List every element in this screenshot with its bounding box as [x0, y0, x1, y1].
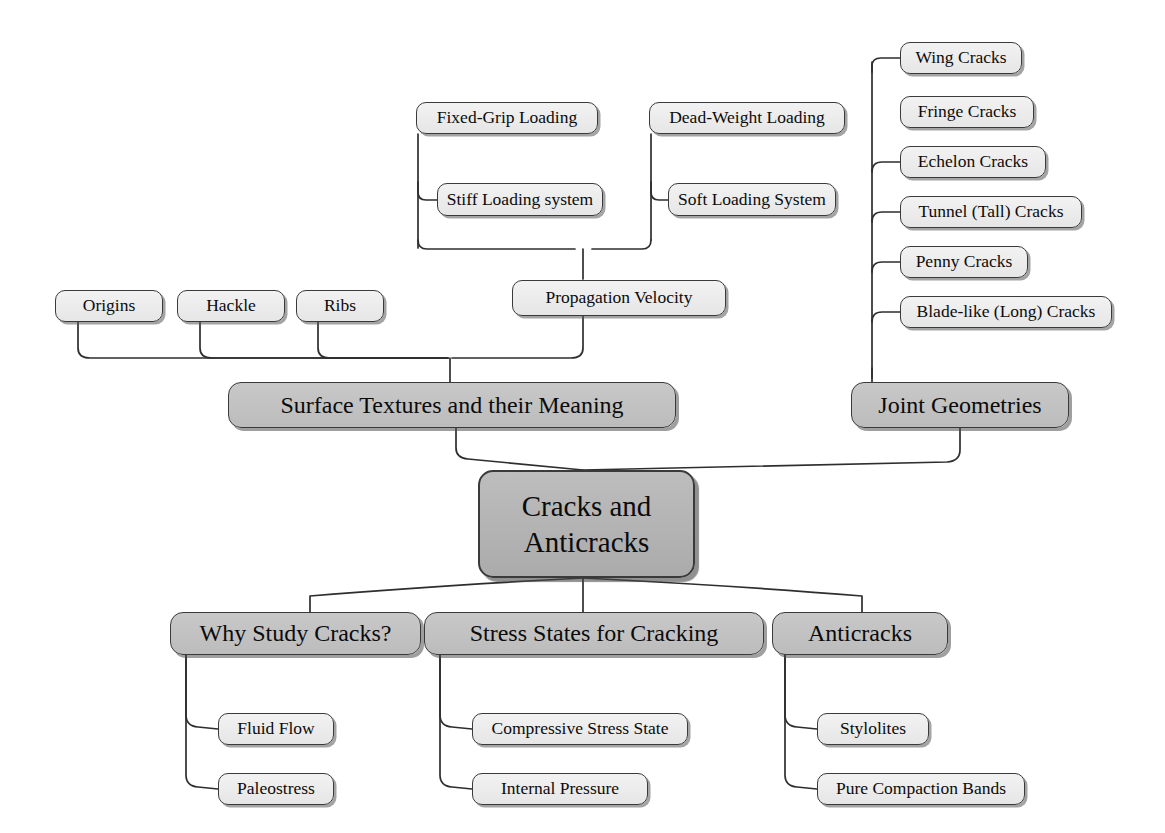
concept-map-diagram: Fixed-Grip Loading Dead-Weight Loading S…: [0, 0, 1165, 833]
node-dead-weight-loading[interactable]: Dead-Weight Loading: [649, 102, 845, 134]
node-cracks-and-anticracks[interactable]: Cracks and Anticracks: [478, 470, 695, 578]
link-propagation-elbow: [452, 316, 583, 358]
link-surface-to-hub: [456, 428, 583, 470]
node-tunnel-tall-cracks[interactable]: Tunnel (Tall) Cracks: [900, 196, 1082, 228]
node-hackle[interactable]: Hackle: [177, 290, 285, 322]
link-anti-to-stylolites: [785, 655, 817, 729]
node-pure-compaction-bands[interactable]: Pure Compaction Bands: [817, 773, 1025, 805]
node-penny-cracks[interactable]: Penny Cracks: [900, 246, 1028, 278]
node-stress-states-for-cracking[interactable]: Stress States for Cracking: [424, 612, 764, 655]
node-paleostress[interactable]: Paleostress: [218, 773, 334, 805]
node-stylolites[interactable]: Stylolites: [817, 713, 929, 745]
link-stress-to-compressive: [440, 655, 472, 729]
link-joint-to-hub: [583, 428, 960, 470]
link-hackle-elbow: [200, 322, 448, 358]
node-why-study-cracks[interactable]: Why Study Cracks?: [170, 612, 421, 655]
link-why-to-fluid-flow: [186, 655, 218, 729]
hub-title-line-2: Anticracks: [524, 524, 650, 560]
node-internal-pressure[interactable]: Internal Pressure: [472, 773, 648, 805]
node-joint-geometries[interactable]: Joint Geometries: [851, 382, 1069, 428]
node-compressive-stress-state[interactable]: Compressive Stress State: [472, 713, 688, 745]
link-to-echelon-cracks: [872, 162, 900, 172]
link-dead-weight-bus: [592, 240, 651, 249]
node-propagation-velocity[interactable]: Propagation Velocity: [512, 280, 726, 316]
node-ribs[interactable]: Ribs: [296, 290, 384, 322]
node-surface-textures-and-their-meaning[interactable]: Surface Textures and their Meaning: [228, 382, 676, 428]
link-fixed-grip-bus: [418, 240, 575, 249]
link-anti-to-compaction: [785, 655, 817, 789]
node-wing-cracks[interactable]: Wing Cracks: [900, 42, 1022, 74]
link-to-wing-cracks: [872, 58, 900, 72]
link-stress-to-internal: [440, 655, 472, 789]
link-to-tunnel-cracks: [872, 212, 900, 222]
link-hub-to-anticracks: [583, 578, 862, 612]
node-fluid-flow[interactable]: Fluid Flow: [218, 713, 334, 745]
node-stiff-loading-system[interactable]: Stiff Loading system: [437, 183, 603, 216]
link-to-blade-cracks: [872, 312, 900, 322]
link-fixed-grip-to-stiff: [418, 182, 437, 200]
link-dead-weight-to-soft: [651, 182, 668, 200]
node-blade-like-long-cracks[interactable]: Blade-like (Long) Cracks: [900, 296, 1112, 328]
node-anticracks[interactable]: Anticracks: [772, 612, 948, 655]
link-why-to-paleostress: [186, 655, 218, 789]
hub-title-line-1: Cracks and: [522, 488, 652, 524]
node-origins[interactable]: Origins: [55, 290, 163, 322]
link-ribs-elbow: [318, 322, 448, 358]
node-echelon-cracks[interactable]: Echelon Cracks: [900, 146, 1046, 178]
link-hub-to-why-study: [310, 578, 583, 612]
node-fringe-cracks[interactable]: Fringe Cracks: [900, 96, 1034, 128]
node-soft-loading-system[interactable]: Soft Loading System: [668, 183, 836, 216]
link-to-penny-cracks: [872, 262, 900, 272]
node-fixed-grip-loading[interactable]: Fixed-Grip Loading: [416, 102, 598, 134]
link-origins-elbow: [78, 322, 448, 358]
